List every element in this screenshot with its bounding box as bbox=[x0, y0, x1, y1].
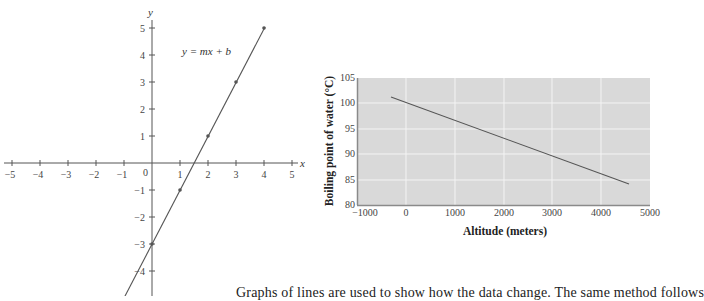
x-tick-label: 0 bbox=[404, 207, 409, 218]
data-point bbox=[178, 188, 182, 192]
y-tick-label: 1 bbox=[140, 131, 145, 142]
boiling-point-chart: 105 100 95 90 85 80 −1000 0 1000 2000 30… bbox=[323, 72, 660, 238]
x-tick-label: −3 bbox=[61, 169, 72, 180]
y-tick-label: 4 bbox=[140, 50, 145, 61]
x-tick-label: 2 bbox=[206, 169, 211, 180]
caption-text: Graphs of lines are used to show how the… bbox=[236, 285, 704, 301]
x-axis-label: x bbox=[299, 157, 305, 169]
linear-function-graph: −5 −4 −3 −2 −1 1 2 3 4 5 0 x y 5 bbox=[4, 6, 305, 296]
x-tick-label: −1 bbox=[117, 169, 128, 180]
y-axis-tick-labels: 105 100 95 90 85 80 bbox=[340, 72, 355, 210]
y-tick-label: 95 bbox=[345, 123, 355, 134]
x-tick-label: 5 bbox=[290, 169, 295, 180]
data-point bbox=[150, 242, 154, 246]
x-tick-label: 1 bbox=[178, 169, 183, 180]
y-tick-label: 3 bbox=[140, 77, 145, 88]
equation-annotation: y = mx + b bbox=[181, 45, 232, 57]
x-tick-label: 4 bbox=[262, 169, 267, 180]
x-tick-label: 5000 bbox=[640, 207, 660, 218]
x-tick-label: 1000 bbox=[445, 207, 465, 218]
data-point bbox=[206, 134, 210, 138]
origin-label: 0 bbox=[143, 167, 148, 178]
y-tick-label: −1 bbox=[134, 185, 145, 196]
y-tick-label: −2 bbox=[134, 212, 145, 223]
x-tick-label: 3000 bbox=[542, 207, 562, 218]
x-axis-tick-labels: −1000 0 1000 2000 3000 4000 5000 bbox=[352, 207, 660, 218]
x-axis-tick-labels: −5 −4 −3 −2 −1 1 2 3 4 5 bbox=[5, 169, 295, 180]
y-tick-label: 105 bbox=[340, 72, 355, 83]
x-tick-label: 3 bbox=[234, 169, 239, 180]
y-tick-label: −3 bbox=[134, 239, 145, 250]
x-tick-label: −4 bbox=[33, 169, 44, 180]
data-point bbox=[234, 80, 238, 84]
y-axis-tick-labels: 5 4 3 2 1 −1 −2 −3 −4 bbox=[134, 23, 145, 277]
y-tick-label: 85 bbox=[345, 174, 355, 185]
x-tick-label: 4000 bbox=[591, 207, 611, 218]
x-tick-label: 2000 bbox=[494, 207, 514, 218]
y-tick-label: 5 bbox=[140, 23, 145, 34]
linear-function-line bbox=[124, 27, 265, 296]
y-tick-label: 2 bbox=[140, 104, 145, 115]
y-tick-label: 100 bbox=[340, 97, 355, 108]
x-tick-label: −5 bbox=[5, 169, 16, 180]
data-point bbox=[262, 26, 266, 30]
x-axis-title: Altitude (meters) bbox=[463, 225, 547, 238]
y-tick-label: 90 bbox=[345, 148, 355, 159]
x-tick-label: −1000 bbox=[352, 207, 378, 218]
y-axis-label: y bbox=[147, 6, 153, 18]
x-tick-label: −2 bbox=[89, 169, 100, 180]
y-axis-title: Boiling point of water (°C) bbox=[323, 76, 336, 206]
